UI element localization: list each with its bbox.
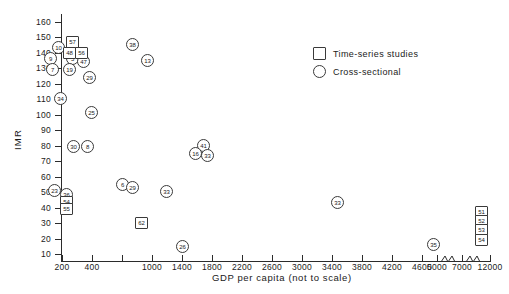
data-point: 33	[201, 149, 214, 162]
data-point: 29	[83, 71, 96, 84]
x-tick	[462, 255, 463, 261]
square-marker-icon	[313, 47, 326, 60]
x-tick	[437, 255, 438, 261]
data-point: 19	[63, 63, 76, 76]
data-point: 34	[54, 92, 67, 105]
y-tick	[55, 177, 61, 178]
x-tick	[92, 255, 93, 261]
data-point: 16	[189, 147, 202, 160]
y-tick-label: 20	[24, 234, 51, 244]
data-point: 56	[75, 47, 88, 59]
y-tick-label: 10	[24, 249, 51, 259]
data-point: 33	[160, 185, 173, 198]
y-tick-label: 60	[24, 172, 51, 182]
axis-break-icon	[441, 254, 459, 265]
y-tick	[55, 146, 61, 147]
data-point: 55	[60, 203, 73, 215]
legend-item-cross-sectional: Cross-sectional	[313, 65, 401, 78]
y-tick-label: 160	[24, 17, 51, 27]
x-tick	[182, 255, 183, 261]
data-point: 25	[85, 106, 98, 119]
x-tick-label: 1400	[166, 262, 198, 272]
legend-label: Cross-sectional	[333, 67, 401, 77]
data-point: 8	[81, 140, 94, 153]
y-tick-label: 30	[24, 218, 51, 228]
y-tick	[55, 84, 61, 85]
circle-marker-icon	[313, 65, 326, 78]
x-tick	[152, 255, 153, 261]
x-tick	[122, 255, 123, 261]
data-point: 54	[475, 234, 488, 246]
y-tick-label: 100	[24, 110, 51, 120]
x-tick	[272, 255, 273, 261]
x-tick-label: 2600	[256, 262, 288, 272]
x-axis-title: GDP per capita (not to scale)	[212, 272, 352, 283]
x-tick	[332, 255, 333, 261]
y-tick-label: 150	[24, 32, 51, 42]
data-point: 30	[67, 140, 80, 153]
y-tick-label: 110	[24, 94, 51, 104]
y-tick	[55, 223, 61, 224]
y-tick-label: 50	[24, 187, 51, 197]
y-tick	[55, 22, 61, 23]
x-tick	[62, 255, 63, 261]
x-tick	[392, 255, 393, 261]
x-tick-label: 3400	[316, 262, 348, 272]
y-tick-label: 40	[24, 203, 51, 213]
y-tick	[55, 239, 61, 240]
x-tick	[422, 255, 423, 261]
y-axis-title: IMR	[12, 129, 23, 150]
data-point: 29	[126, 181, 139, 194]
x-tick-label: 400	[76, 262, 108, 272]
scatter-chart: IMR GDP per capita (not to scale) 160 15…	[0, 0, 509, 294]
x-tick-label: 3000	[286, 262, 318, 272]
axis-break-icon	[466, 254, 484, 265]
data-point: 62	[135, 217, 148, 229]
x-tick-label: 4200	[376, 262, 408, 272]
x-tick-label: 1000	[136, 262, 168, 272]
data-point: 35	[427, 238, 440, 251]
x-tick-label: 1800	[196, 262, 228, 272]
y-tick	[55, 130, 61, 131]
y-tick-label: 120	[24, 79, 51, 89]
x-tick-label: 3800	[346, 262, 378, 272]
y-tick	[55, 254, 61, 255]
legend-item-time-series: Time-series studies	[313, 47, 418, 60]
x-tick	[362, 255, 363, 261]
y-tick-label: 70	[24, 156, 51, 166]
x-tick	[242, 255, 243, 261]
y-tick	[55, 115, 61, 116]
legend-label: Time-series studies	[333, 49, 418, 59]
data-point: 26	[176, 240, 189, 253]
data-point: 7	[46, 63, 59, 76]
x-tick-label: 2200	[226, 262, 258, 272]
data-point: 33	[331, 196, 344, 209]
x-tick-label: 200	[46, 262, 78, 272]
y-tick-label: 80	[24, 141, 51, 151]
y-tick-label: 90	[24, 125, 51, 135]
data-point: 13	[141, 54, 154, 67]
y-tick	[55, 161, 61, 162]
x-tick	[212, 255, 213, 261]
data-point: 38	[126, 38, 139, 51]
x-tick	[490, 255, 491, 261]
x-tick	[302, 255, 303, 261]
y-tick	[55, 37, 61, 38]
